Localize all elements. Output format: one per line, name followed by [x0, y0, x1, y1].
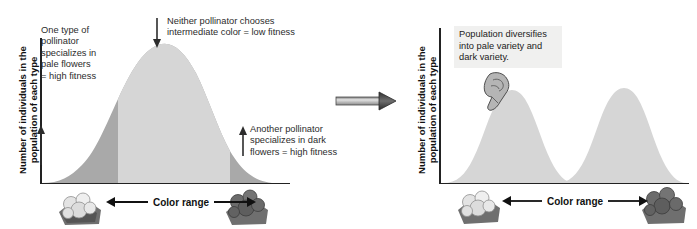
panel-after-selection: Number of individuals in the population …: [350, 0, 697, 229]
pale-flower-cluster-icon: [55, 188, 103, 229]
intermediate-fitness-note: Neither pollinator chooses intermediate …: [167, 16, 347, 39]
pointing-hand-icon: [480, 70, 516, 116]
panel-before-selection: Number of individuals in the population …: [0, 0, 350, 229]
x-axis-line-left: [40, 183, 290, 185]
diversification-callout: Population diversifies into pale variety…: [454, 26, 562, 68]
pale-flower-cluster-icon-right: [454, 186, 502, 229]
color-range-label-right: Color range: [542, 196, 608, 207]
up-arrow-icon-left: [36, 125, 46, 169]
down-arrow-icon: [152, 18, 162, 52]
color-range-left: Color range: [106, 196, 256, 208]
color-range-right: Color range: [502, 195, 648, 207]
dark-pollinator-note: Another pollinator specializes in dark f…: [250, 124, 355, 158]
up-arrow-icon-right: [238, 126, 248, 160]
y-axis-label-left: Number of individuals in the population …: [17, 25, 39, 195]
pale-pollinator-note: One type of pollinator specializes in pa…: [41, 25, 123, 82]
disruptive-selection-figure: Number of individuals in the population …: [0, 0, 697, 229]
y-axis-label-right: Number of individuals in the population …: [416, 25, 438, 195]
color-range-label-left: Color range: [148, 197, 214, 208]
